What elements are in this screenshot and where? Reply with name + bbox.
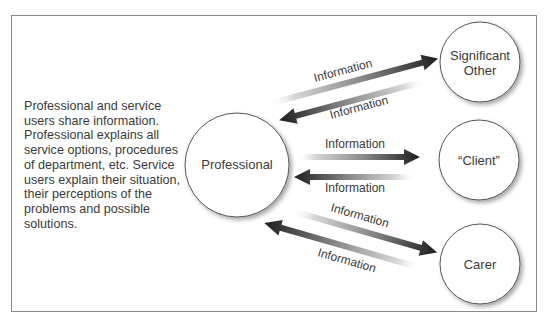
- node-significant-other: Significant Other: [440, 22, 520, 102]
- label-from-client: Information: [325, 181, 385, 195]
- node-significant-other-label-line1: Significant: [450, 48, 510, 63]
- node-professional: Professional: [185, 113, 289, 217]
- label-to-client: Information: [325, 137, 385, 151]
- node-professional-label: Professional: [201, 157, 273, 172]
- node-client-label: “Client”: [458, 153, 500, 168]
- node-client: “Client”: [439, 120, 519, 200]
- information-flow-diagram: Information Information Information Info…: [0, 0, 553, 324]
- node-significant-other-label-line2: Other: [464, 63, 497, 78]
- node-carer-label: Carer: [464, 257, 497, 272]
- arrow-to-client: [296, 149, 420, 165]
- node-carer: Carer: [440, 224, 520, 304]
